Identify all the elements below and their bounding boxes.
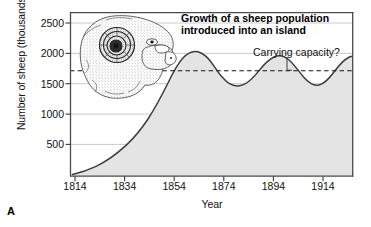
chart-title-line-1: Growth of a sheep population (181, 12, 329, 24)
y-tick-marks (66, 23, 71, 144)
x-tick-label-1814: 1814 (63, 180, 86, 192)
x-tick-label-1834: 1834 (113, 180, 136, 192)
x-axis-title: Year (70, 198, 354, 210)
x-tick-label-1894: 1894 (262, 180, 285, 192)
y-tick-label-2000: 2000 (20, 47, 64, 59)
x-tick-label-1914: 1914 (311, 180, 334, 192)
x-tick-label-1874: 1874 (212, 180, 235, 192)
y-tick-label-1500: 1500 (20, 78, 64, 90)
panel-label: A (7, 205, 15, 217)
chart-title-line-2: introduced into an island (181, 24, 329, 36)
chart-title: Growth of a sheep population introduced … (181, 12, 329, 36)
y-tick-label-1000: 1000 (20, 108, 64, 120)
x-tick-label-1854: 1854 (163, 180, 186, 192)
figure-panel-a: Growth of a sheep population introduced … (0, 0, 371, 227)
y-tick-label-2500: 2500 (20, 17, 64, 29)
y-tick-labels: 500 1000 1500 2000 2500 (18, 0, 64, 227)
y-tick-label-500: 500 (20, 138, 64, 150)
carrying-capacity-label: Carrying capacity? (253, 46, 340, 58)
